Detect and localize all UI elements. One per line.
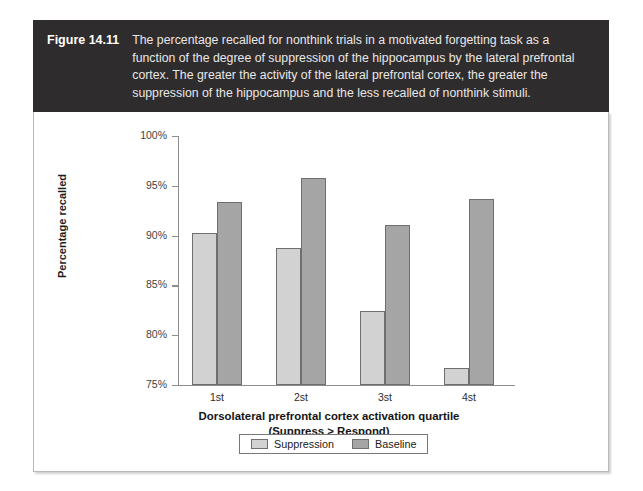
bar-suppression-4st	[444, 368, 469, 385]
bar-baseline-2st	[301, 178, 326, 385]
legend-label: Suppression	[274, 438, 334, 450]
x-tick-label: 2st	[281, 391, 321, 403]
bar-group	[276, 136, 326, 385]
bar-suppression-2st	[276, 248, 301, 385]
y-tick-mark	[172, 186, 178, 187]
x-axis-line	[178, 385, 515, 386]
chart-panel: Percentage recalled 75%80%85%90%95%100% …	[33, 112, 609, 472]
bar-group	[192, 136, 242, 385]
x-tick-label: 3st	[365, 391, 405, 403]
legend-swatch-icon	[251, 439, 268, 449]
legend-swatch-icon	[352, 439, 369, 449]
y-tick-mark	[172, 285, 178, 286]
figure-caption-text: The percentage recalled for nonthink tri…	[132, 32, 591, 102]
y-tick-label: 90%	[127, 229, 167, 241]
legend-entry: Baseline	[352, 438, 416, 450]
bar-baseline-1st	[217, 202, 242, 385]
x-tick-label: 1st	[197, 391, 237, 403]
bar-baseline-4st	[469, 199, 494, 385]
y-axis-title: Percentage recalled	[56, 146, 68, 306]
y-tick-label: 100%	[127, 129, 167, 141]
y-tick-label: 85%	[127, 278, 167, 290]
legend-entry: Suppression	[251, 438, 334, 450]
bars-layer	[179, 136, 515, 385]
x-axis-title: Dorsolateral prefrontal cortex activatio…	[94, 409, 564, 425]
y-tick-label: 80%	[127, 328, 167, 340]
bar-group	[444, 136, 494, 385]
figure-number-label: Figure 14.11	[47, 32, 132, 50]
bar-suppression-1st	[192, 233, 217, 385]
plot-area: Percentage recalled 75%80%85%90%95%100% …	[34, 112, 610, 472]
figure-container: Figure 14.11 The percentage recalled for…	[0, 0, 643, 491]
bar-baseline-3st	[385, 225, 410, 385]
y-tick-label: 75%	[127, 378, 167, 390]
figure-caption-bar: Figure 14.11 The percentage recalled for…	[33, 20, 609, 112]
y-tick-mark	[172, 136, 178, 137]
bar-suppression-3st	[360, 311, 385, 385]
legend-label: Baseline	[375, 438, 416, 450]
x-tick-label: 4st	[449, 391, 489, 403]
bar-group	[360, 136, 410, 385]
y-tick-mark	[172, 335, 178, 336]
y-tick-mark	[172, 385, 178, 386]
y-tick-mark	[172, 236, 178, 237]
y-tick-label: 95%	[127, 179, 167, 191]
chart-legend: SuppressionBaseline	[239, 434, 428, 454]
